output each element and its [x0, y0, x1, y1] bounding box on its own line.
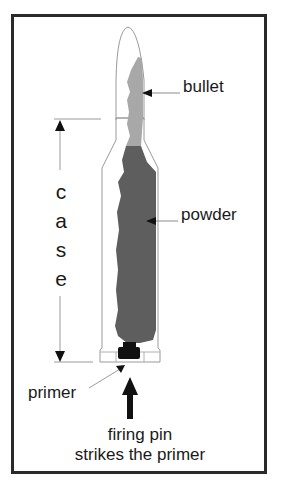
powder-label: powder — [181, 205, 237, 225]
firing-caption-line1: firing pin — [40, 425, 240, 445]
powder-shape — [115, 146, 156, 343]
bullet-shape — [126, 57, 143, 146]
case-letter: a — [51, 206, 71, 235]
firing-pin-caption: firing pin strikes the primer — [40, 425, 240, 465]
cartridge-diagram — [0, 0, 285, 489]
case-letter: c — [51, 177, 71, 206]
case-dimension-top-arrowhead — [55, 120, 65, 131]
primer-label: primer — [28, 383, 76, 403]
firing-caption-line2: strikes the primer — [40, 445, 240, 465]
primer-pointer-arrowhead — [116, 365, 125, 373]
bullet-label: bullet — [183, 77, 224, 97]
firing-pin-arrow-icon — [122, 377, 138, 419]
case-dimension-bottom-arrowhead — [55, 351, 65, 362]
case-letter: s — [51, 235, 71, 264]
case-label: c a s e — [51, 177, 71, 293]
case-letter: e — [51, 264, 71, 293]
